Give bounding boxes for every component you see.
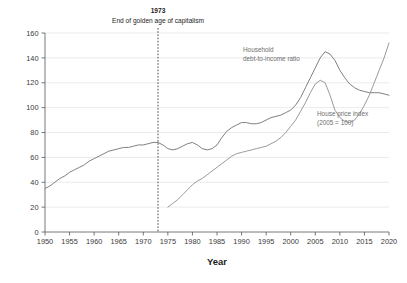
y-tick-label: 100 — [26, 103, 38, 112]
x-tick-label: 1965 — [110, 237, 126, 246]
x-tick-label: 2015 — [356, 237, 372, 246]
y-tick-label: 80 — [30, 128, 38, 137]
chart-figure: 020406080100120140160 195019551960196519… — [0, 0, 407, 283]
series1-label-line2: debt-to-income ratio — [243, 55, 300, 62]
x-tick-label: 1975 — [160, 237, 176, 246]
series1-label-line1: Household — [243, 46, 274, 53]
x-tick-label: 1990 — [233, 237, 249, 246]
x-tick-label: 1955 — [61, 237, 77, 246]
event-year-label: 1973 — [151, 7, 166, 14]
x-axis-title: Year — [207, 256, 227, 267]
y-tick-label: 160 — [26, 29, 38, 38]
x-axis: 1950195519601965197019751980198519901995… — [37, 232, 397, 246]
y-tick-label: 20 — [30, 203, 38, 212]
x-tick-label: 2005 — [307, 237, 323, 246]
event-annotation-1973: 1973 End of golden age of capitalism — [112, 7, 205, 232]
series2-label-line2: (2005 = 100) — [317, 119, 353, 127]
series2-label-line1: House price index — [317, 110, 369, 118]
x-tick-label: 2010 — [332, 237, 348, 246]
x-tick-label: 2020 — [381, 237, 397, 246]
y-tick-label: 140 — [26, 54, 38, 63]
x-tick-label: 1995 — [258, 237, 274, 246]
x-tick-label: 2000 — [282, 237, 298, 246]
x-tick-label: 1985 — [209, 237, 225, 246]
event-description-label: End of golden age of capitalism — [112, 17, 205, 25]
series-label-house-price: House price index (2005 = 100) — [317, 110, 369, 127]
y-tick-label: 40 — [30, 178, 38, 187]
series-label-household-debt: Household debt-to-income ratio — [243, 46, 300, 62]
chart-svg: 020406080100120140160 195019551960196519… — [0, 0, 407, 283]
x-tick-label: 1950 — [37, 237, 53, 246]
y-tick-label: 60 — [30, 153, 38, 162]
x-tick-label: 1960 — [86, 237, 102, 246]
y-tick-label: 0 — [34, 228, 38, 237]
x-tick-label: 1980 — [184, 237, 200, 246]
y-tick-label: 120 — [26, 78, 38, 87]
y-axis: 020406080100120140160 — [26, 29, 45, 237]
x-tick-label: 1970 — [135, 237, 151, 246]
